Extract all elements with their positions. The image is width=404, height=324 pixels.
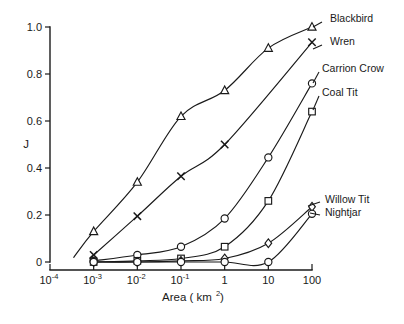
marker-nightjar-4 <box>265 258 272 265</box>
chart-background <box>0 0 404 324</box>
x-tick-label-base-6: 100 <box>303 274 321 286</box>
marker-nightjar-2 <box>177 258 184 265</box>
x-tick-label-5: 10 <box>262 274 274 286</box>
x-tick-label-base-0: 10 <box>40 274 52 286</box>
x-tick-label-sup-1: -3 <box>95 272 102 281</box>
series-label-willow-tit: Willow Tit <box>325 193 369 205</box>
marker-coal-tit-3 <box>221 243 228 250</box>
y-tick-label-1: 0.2 <box>27 209 42 221</box>
x-tick-label-sup-2: -2 <box>139 272 146 281</box>
x-axis-title-tail: ) <box>220 291 224 303</box>
marker-coal-tit-4 <box>265 198 272 205</box>
series-label-coal-tit: Coal Tit <box>322 86 358 98</box>
marker-nightjar-1 <box>134 258 141 265</box>
marker-carrion-crow-2 <box>177 243 184 250</box>
x-axis-title-base: Area ( km <box>162 291 212 303</box>
y-tick-label-0: 0 <box>36 256 42 268</box>
x-tick-label-6: 100 <box>303 274 321 286</box>
marker-carrion-crow-4 <box>265 154 272 161</box>
y-tick-label-5: 1.0 <box>27 21 42 33</box>
x-tick-label-base-1: 10 <box>83 274 95 286</box>
y-tick-label-4: 0.8 <box>27 68 42 80</box>
y-tick-label-3: 0.6 <box>27 115 42 127</box>
x-tick-label-base-5: 10 <box>262 274 274 286</box>
series-label-carrion-crow: Carrion Crow <box>322 62 384 74</box>
y-axis-title: J <box>23 138 29 150</box>
marker-carrion-crow-3 <box>221 215 228 222</box>
marker-nightjar-3 <box>221 258 228 265</box>
marker-coal-tit-5 <box>309 108 316 115</box>
series-label-wren: Wren <box>330 35 355 47</box>
x-tick-label-base-4: 1 <box>222 274 228 286</box>
x-tick-label-4: 1 <box>222 274 228 286</box>
x-tick-label-base-3: 10 <box>171 274 183 286</box>
species-area-chart: 00.20.40.60.81.010-410-310-210-1110100 B… <box>0 0 404 324</box>
series-label-nightjar: Nightjar <box>325 206 362 218</box>
x-tick-label-base-2: 10 <box>127 274 139 286</box>
y-tick-label-2: 0.4 <box>27 162 42 174</box>
series-label-blackbird: Blackbird <box>330 12 373 24</box>
x-tick-label-sup-0: -4 <box>52 272 59 281</box>
marker-nightjar-0 <box>90 258 97 265</box>
x-tick-label-sup-3: -1 <box>183 272 190 281</box>
